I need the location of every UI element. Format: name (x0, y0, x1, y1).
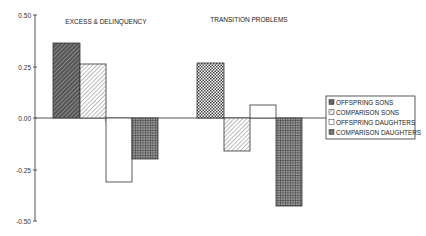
legend: OFFSPRING SONS COMPARISON SONS OFFSPRING… (326, 96, 421, 139)
group-title-transition: TRANSITION PROBLEMS (210, 16, 288, 23)
y-tick-label: -0.25 (16, 167, 31, 174)
bar-offspring-daughters (106, 118, 132, 182)
legend-swatch-offspring-sons (329, 100, 334, 105)
bar-chart: 0.50 0.25 0.00 -0.25 -0.50 EXCESS & DELI… (0, 0, 426, 236)
bar-offspring-daughters (250, 105, 276, 118)
legend-label: COMPARISON SONS (336, 109, 399, 116)
bar-comparison-daughters (132, 118, 158, 159)
y-tick-label: -0.50 (16, 218, 31, 225)
group-title-excess: EXCESS & DELINQUENCY (65, 18, 147, 26)
y-tick-label: 0.00 (18, 115, 31, 122)
legend-label: COMPARISON DAUGHTERS (336, 129, 421, 136)
legend-swatch-offspring-daughters (329, 120, 334, 125)
bar-comparison-daughters (276, 118, 302, 206)
bar-offspring-sons (197, 63, 224, 118)
legend-label: OFFSPRING SONS (336, 99, 393, 106)
y-tick-label: 0.50 (18, 12, 31, 19)
bar-offspring-sons (53, 43, 80, 118)
bar-comparison-sons (224, 118, 250, 151)
bar-comparison-sons (80, 64, 106, 118)
legend-swatch-comparison-daughters (329, 130, 334, 135)
y-tick-label: 0.25 (18, 64, 31, 71)
legend-swatch-comparison-sons (329, 110, 334, 115)
bar-group-excess (53, 43, 158, 182)
legend-label: OFFSPRING DAUGHTERS (336, 119, 415, 126)
bar-group-transition (197, 63, 302, 206)
